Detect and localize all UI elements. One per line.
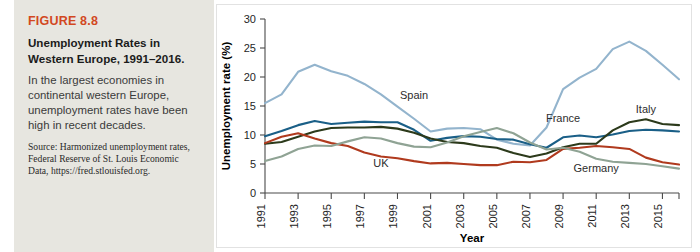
chart-panel: 051015202530 199119931995199719992001200… bbox=[216, 4, 692, 248]
x-tick-label: 2005 bbox=[487, 204, 499, 228]
y-tick-label: 25 bbox=[244, 42, 256, 54]
x-axis-title: Year bbox=[460, 232, 485, 244]
y-axis-title: Unemployment rate (%) bbox=[220, 42, 232, 171]
x-tick-label: 1991 bbox=[255, 204, 267, 228]
figure-description: In the largest economies in continental … bbox=[28, 73, 200, 134]
x-tick-label: 2009 bbox=[553, 204, 565, 228]
figure-number: FIGURE 8.8 bbox=[28, 14, 200, 28]
figure-source: Source: Harmonized unemployment rates, F… bbox=[28, 141, 200, 177]
y-axis: 051015202530 bbox=[244, 13, 265, 199]
x-axis: 1991199319951997199920012003200520072009… bbox=[255, 193, 679, 228]
y-tick-label: 20 bbox=[244, 71, 256, 83]
y-tick-label: 10 bbox=[244, 129, 256, 141]
caption-panel: FIGURE 8.8 Unemployment Rates in Western… bbox=[14, 0, 214, 252]
y-tick-label: 15 bbox=[244, 100, 256, 112]
series-label-uk: UK bbox=[373, 157, 389, 169]
x-tick-label: 2011 bbox=[586, 204, 598, 228]
y-tick-label: 30 bbox=[244, 13, 256, 25]
figure-title: Unemployment Rates in Western Europe, 19… bbox=[28, 35, 200, 66]
x-tick-label: 1997 bbox=[354, 204, 366, 228]
series-line-uk bbox=[265, 133, 679, 165]
x-tick-label: 1993 bbox=[288, 204, 300, 228]
x-tick-label: 1999 bbox=[387, 204, 399, 228]
x-tick-label: 1995 bbox=[321, 204, 333, 228]
x-tick-label: 2007 bbox=[520, 204, 532, 228]
series-label-italy: Italy bbox=[636, 103, 657, 115]
x-tick-label: 2015 bbox=[652, 204, 664, 228]
y-tick-label: 5 bbox=[250, 158, 256, 170]
series-label-germany: Germany bbox=[574, 162, 620, 174]
x-tick-label: 2013 bbox=[619, 204, 631, 228]
series-line-italy bbox=[265, 119, 679, 157]
series-label-spain: Spain bbox=[400, 89, 428, 101]
line-chart: 051015202530 199119931995199719992001200… bbox=[217, 5, 691, 247]
figure-container: FIGURE 8.8 Unemployment Rates in Western… bbox=[0, 0, 700, 252]
x-tick-label: 2001 bbox=[421, 204, 433, 228]
y-tick-label: 0 bbox=[250, 187, 256, 199]
series-lines bbox=[265, 42, 679, 169]
x-tick-label: 2003 bbox=[454, 204, 466, 228]
series-label-france: France bbox=[546, 112, 580, 124]
